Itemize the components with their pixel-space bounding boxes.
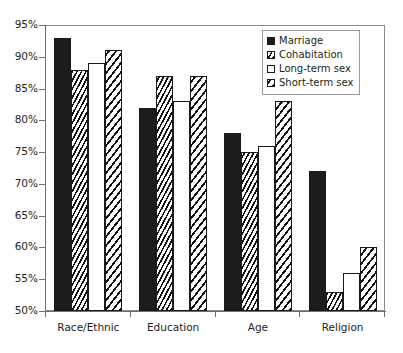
bar: [190, 76, 207, 311]
bar: [71, 70, 88, 312]
bar-fill: [310, 172, 325, 310]
x-axis-category-label: Religion: [300, 322, 385, 333]
y-axis-tick: [39, 279, 45, 280]
y-axis-tick: [39, 247, 45, 248]
y-axis-tick: [39, 120, 45, 121]
x-axis-category-label: Education: [131, 322, 216, 333]
y-axis-label: 85%: [0, 83, 38, 94]
y-axis-label: 90%: [0, 51, 38, 62]
bar-fill: [55, 39, 70, 310]
legend-item[interactable]: Long-term sex: [267, 62, 353, 76]
y-axis-tick: [39, 25, 45, 26]
bar: [156, 76, 173, 311]
legend-item[interactable]: Cohabitation: [267, 48, 353, 62]
legend-item-label: Marriage: [279, 36, 323, 46]
x-axis-line: [45, 311, 386, 312]
bar-fill: [344, 274, 359, 310]
y-axis-tick: [39, 57, 45, 58]
chart-legend: MarriageCohabitationLong-term sexShort-t…: [262, 30, 360, 95]
bar-fill: [89, 64, 104, 310]
legend-swatch-icon: [267, 37, 275, 45]
bar-fill: [191, 77, 206, 310]
y-axis-tick: [39, 152, 45, 153]
legend-item-label: Short-term sex: [279, 78, 353, 88]
bar-fill: [259, 147, 274, 310]
bar: [173, 101, 190, 311]
y-axis-tick: [39, 184, 45, 185]
bar: [139, 108, 156, 311]
x-axis-tick: [130, 311, 131, 317]
bar: [343, 273, 360, 311]
bar-fill: [276, 102, 291, 310]
bar: [88, 63, 105, 311]
bar-fill: [72, 71, 87, 311]
y-axis-label: 65%: [0, 210, 38, 221]
legend-item-label: Long-term sex: [279, 64, 351, 74]
y-axis-label: 80%: [0, 114, 38, 125]
bar-fill: [242, 153, 257, 310]
y-axis-tick: [39, 216, 45, 217]
bar: [309, 171, 326, 311]
x-axis-tick: [384, 311, 385, 317]
y-axis-label: 55%: [0, 273, 38, 284]
bar-fill: [174, 102, 189, 310]
x-axis-category-label: Race/Ethnic: [46, 322, 131, 333]
grouped-bar-chart: 95%90%85%80%75%70%65%60%55%50% Race/Ethn…: [0, 0, 403, 353]
y-axis-label: 95%: [0, 19, 38, 30]
legend-swatch-icon: [267, 65, 275, 73]
bar-fill: [327, 293, 342, 310]
x-axis-tick: [299, 311, 300, 317]
y-axis-tick: [39, 89, 45, 90]
bar: [241, 152, 258, 311]
bar: [326, 292, 343, 311]
legend-swatch-icon: [267, 51, 275, 59]
legend-item[interactable]: Short-term sex: [267, 76, 353, 90]
bar-fill: [157, 77, 172, 310]
bar: [275, 101, 292, 311]
y-axis-label: 60%: [0, 241, 38, 252]
x-axis-tick: [45, 311, 46, 317]
y-axis-label: 75%: [0, 146, 38, 157]
bar: [224, 133, 241, 311]
bar: [258, 146, 275, 311]
bar: [105, 50, 122, 311]
x-axis-tick: [215, 311, 216, 317]
bar-fill: [361, 248, 376, 310]
legend-item[interactable]: Marriage: [267, 34, 353, 48]
bar-fill: [140, 109, 155, 310]
legend-swatch-icon: [267, 79, 275, 87]
bar-fill: [225, 134, 240, 310]
bar-fill: [106, 51, 121, 310]
bar: [54, 38, 71, 311]
legend-item-label: Cohabitation: [279, 50, 343, 60]
y-axis-label: 50%: [0, 305, 38, 316]
y-axis-label: 70%: [0, 178, 38, 189]
bar: [360, 247, 377, 311]
x-axis-category-label: Age: [216, 322, 301, 333]
